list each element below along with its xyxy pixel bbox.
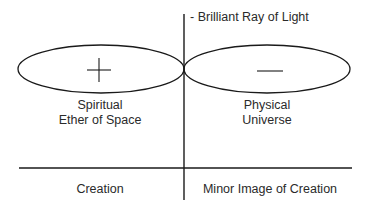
physical-label: Physical Universe bbox=[207, 98, 327, 128]
physical-label-line1: Physical bbox=[207, 98, 327, 113]
spiritual-label: Spiritual Ether of Space bbox=[40, 98, 160, 128]
physical-ellipse bbox=[184, 45, 350, 93]
spiritual-label-line2: Ether of Space bbox=[40, 113, 160, 128]
creation-label: Creation bbox=[40, 182, 160, 197]
spiritual-ellipse bbox=[18, 45, 184, 93]
spiritual-label-line1: Spiritual bbox=[40, 98, 160, 113]
minor-image-label: Minor Image of Creation bbox=[195, 182, 345, 197]
ray-label: - Brilliant Ray of Light bbox=[190, 10, 309, 24]
physical-label-line2: Universe bbox=[207, 113, 327, 128]
